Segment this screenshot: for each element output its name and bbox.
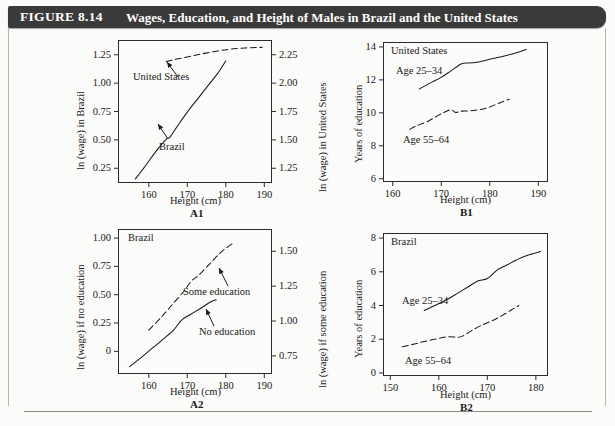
y-tick-label-b1: 14 <box>339 42 376 53</box>
axis-title-x-a1: Height (cm) <box>170 196 221 207</box>
panel-a1: 1601701801900.250.500.751.001.251.251.50… <box>0 0 330 210</box>
panel-b1: 16017018019068101214 Height (cm) Years o… <box>330 0 615 210</box>
series-label-age-5564-b2: Age 55–64 <box>405 356 451 367</box>
y2-tick-label-a1: 1.50 <box>279 135 297 146</box>
x-tick-label-a2: 160 <box>138 381 160 392</box>
axis-title-y-b1: Years of education <box>354 85 365 163</box>
axis-title-y-a1: ln (wage) in Brazil <box>76 91 87 170</box>
panel-label-a2: A2 <box>190 398 203 410</box>
axis-title-x-b2: Height (cm) <box>440 390 491 401</box>
axis-title-y2-a1: ln (wage) in United States <box>318 82 329 192</box>
y-tick-label-b2: 0 <box>339 368 376 379</box>
y-tick-label-a2: 1.00 <box>74 233 111 244</box>
axis-title-y-a2: ln (wage) if no education <box>76 264 87 370</box>
series-label-no-education-a2: No education <box>199 327 255 338</box>
y2-tick-label-a2: 1.25 <box>279 281 297 292</box>
annotation-arrow <box>206 309 214 326</box>
series-label-united-states-a1: United States <box>133 72 189 83</box>
x-tick-label-b2: 150 <box>379 383 401 394</box>
axis-title-x-b1: Height (cm) <box>440 195 491 206</box>
axis-title-y2-a2: ln (wage) if some education <box>318 271 329 388</box>
series-curve-b2 <box>402 306 518 347</box>
x-tick-label-b1: 160 <box>382 189 404 200</box>
y2-tick-label-a2: 1.50 <box>279 246 297 257</box>
x-tick-label-a1: 160 <box>138 190 160 201</box>
x-tick-label-a2: 190 <box>253 381 275 392</box>
panel-label-b2: B2 <box>460 401 473 413</box>
figure-container: FIGURE 8.14 Wages, Education, and Height… <box>0 0 615 426</box>
y-tick-label-b2: 8 <box>339 233 376 244</box>
series-label-some-education-a2: Some education <box>183 287 250 298</box>
y-tick-label-a1: 1.25 <box>74 50 111 61</box>
axis-title-x-a2: Height (cm) <box>170 387 221 398</box>
y2-tick-label-a1: 2.00 <box>279 78 297 89</box>
y-tick-label-a1: 1.00 <box>74 78 111 89</box>
series-label-age-2534-b1: Age 25–34 <box>396 66 442 77</box>
axis-title-y-b2: Years of education <box>354 280 365 358</box>
y2-tick-label-a2: 0.75 <box>279 351 297 362</box>
x-tick-label-b1: 190 <box>527 189 549 200</box>
annotation-arrow <box>158 124 168 139</box>
plot-curves-a1 <box>0 0 330 210</box>
series-curve-b1 <box>410 99 509 129</box>
series-label-age-2534-b2: Age 25–34 <box>402 296 448 307</box>
corner-note-b2: Brazil <box>391 237 417 248</box>
series-curve-a1 <box>166 47 262 61</box>
y2-tick-label-a1: 1.75 <box>279 107 297 118</box>
corner-note-b1: United States <box>391 46 447 57</box>
y2-tick-label-a2: 1.00 <box>279 316 297 327</box>
y2-tick-label-a1: 1.25 <box>279 163 297 174</box>
y-tick-label-b2: 6 <box>339 267 376 278</box>
panel-b2: 15016017018002468 Height (cm) Years of e… <box>330 210 615 426</box>
series-label-age-5564-b1: Age 55–64 <box>403 135 449 146</box>
x-tick-label-b2: 180 <box>525 383 547 394</box>
panel-a2: 16017018019000.250.500.751.000.751.001.2… <box>0 210 330 426</box>
y2-tick-label-a1: 2.25 <box>279 50 297 61</box>
annotation-arrow <box>219 268 228 286</box>
y-tick-label-b1: 6 <box>339 174 376 185</box>
series-label-brazil-a1: Brazil <box>159 142 185 153</box>
x-tick-label-a1: 190 <box>253 190 275 201</box>
corner-note-a2: Brazil <box>128 233 154 244</box>
